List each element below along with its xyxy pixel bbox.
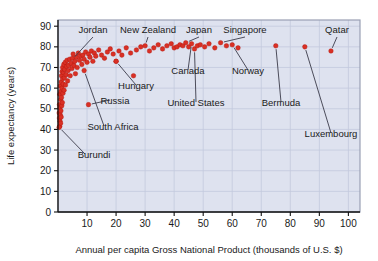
y-tick-label: 30	[40, 145, 52, 156]
annotation-label: Russia	[100, 95, 130, 106]
data-point	[218, 40, 223, 45]
data-point	[143, 44, 148, 49]
y-tick-label: 60	[40, 83, 52, 94]
data-point	[68, 73, 73, 78]
annotation-label: Canada	[171, 65, 205, 76]
y-tick-label: 10	[40, 186, 52, 197]
x-axis-title: Annual per capita Gross National Product…	[75, 244, 342, 255]
data-point	[62, 88, 67, 93]
data-point	[117, 49, 122, 54]
data-point	[189, 41, 194, 46]
data-point	[198, 42, 203, 47]
y-tick-label: 70	[40, 62, 52, 73]
data-point	[65, 79, 70, 84]
x-tick-label: 10	[81, 218, 93, 229]
y-axis-title: Life expectancy (years)	[5, 67, 16, 165]
data-point	[111, 52, 116, 57]
data-point	[77, 58, 82, 63]
annotation-label: Bermuda	[262, 97, 301, 108]
data-point	[213, 46, 218, 51]
data-point	[93, 54, 98, 59]
annotation-label: New Zealand	[120, 24, 176, 35]
data-point	[329, 49, 334, 54]
scatter-chart-figure: JordanNew ZealandJapanSingaporeQatarCana…	[0, 0, 378, 261]
data-point	[59, 95, 64, 100]
data-point	[96, 48, 101, 53]
data-point	[147, 49, 152, 54]
data-point	[138, 45, 143, 50]
x-tick-label: 50	[198, 218, 210, 229]
y-tick-label: 0	[45, 207, 51, 218]
data-point	[160, 47, 165, 52]
y-tick-label: 90	[40, 21, 52, 32]
data-point	[303, 45, 308, 50]
data-point	[131, 73, 136, 78]
annotation-label: United States	[167, 97, 224, 108]
data-point	[86, 102, 91, 107]
data-point	[156, 42, 161, 47]
y-tick-label: 20	[40, 165, 52, 176]
data-point	[230, 42, 235, 47]
chart-canvas: JordanNew ZealandJapanSingaporeQatarCana…	[0, 0, 378, 261]
x-tick-label: 60	[227, 218, 239, 229]
data-point	[124, 46, 129, 51]
plot-background	[58, 20, 360, 212]
data-point	[128, 51, 133, 56]
annotation-label: Luxembourg	[305, 128, 358, 139]
data-point	[236, 46, 241, 51]
data-point	[134, 48, 139, 53]
data-point	[82, 68, 87, 73]
x-tick-label: 100	[340, 218, 357, 229]
annotation-label: Japan	[186, 24, 212, 35]
data-point	[63, 83, 68, 88]
data-point	[102, 56, 107, 61]
data-point	[202, 45, 207, 50]
data-point	[165, 44, 170, 49]
data-point	[108, 47, 113, 52]
y-tick-label: 50	[40, 103, 52, 114]
data-point	[91, 59, 96, 64]
data-point	[169, 41, 174, 46]
x-tick-label: 70	[256, 218, 268, 229]
y-tick-label: 40	[40, 124, 52, 135]
data-point	[58, 121, 63, 126]
data-point	[88, 55, 93, 60]
data-point	[73, 71, 78, 76]
x-tick-label: 40	[169, 218, 181, 229]
data-point	[80, 62, 85, 67]
data-point	[224, 44, 229, 49]
data-point	[183, 40, 188, 45]
x-tick-label: 80	[285, 218, 297, 229]
data-point	[273, 44, 278, 49]
data-point	[75, 65, 80, 70]
annotation-label: Norway	[232, 65, 264, 76]
data-point	[73, 59, 78, 64]
y-tick-label: 80	[40, 41, 52, 52]
data-point	[114, 59, 119, 64]
annotation-label: South Africa	[87, 121, 139, 132]
annotation-label: Jordan	[78, 24, 107, 35]
data-point	[59, 115, 64, 120]
data-point	[85, 60, 90, 65]
annotation-label: Burundi	[78, 149, 111, 160]
annotation-label: Singapore	[223, 24, 266, 35]
annotation-label: Hungary	[118, 80, 154, 91]
x-tick-label: 20	[111, 218, 123, 229]
data-point	[60, 100, 65, 105]
x-tick-label: 30	[140, 218, 152, 229]
data-point	[152, 46, 157, 51]
data-point	[64, 72, 69, 77]
data-point	[207, 41, 212, 46]
annotation-label: Qatar	[325, 24, 349, 35]
data-point	[59, 109, 64, 114]
x-tick-label: 90	[314, 218, 326, 229]
data-point	[120, 53, 125, 58]
